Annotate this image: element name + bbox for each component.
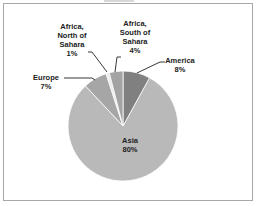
label-africa-north-line3: Sahara (52, 40, 92, 49)
leader-line-africa-south (115, 57, 121, 72)
label-africa-north: Africa, North of Sahara 1% (52, 22, 92, 58)
label-asia: Asia 80% (115, 136, 145, 154)
label-africa-south-value: 4% (113, 46, 157, 55)
leader-line-europe (64, 78, 95, 80)
label-africa-south-line3: Sahara (113, 37, 157, 46)
label-africa-north-value: 1% (52, 49, 92, 58)
label-africa-south: Africa, South of Sahara 4% (113, 19, 157, 55)
label-america-value: 8% (157, 65, 203, 74)
label-america: America 8% (157, 56, 203, 74)
label-europe: Europe 7% (26, 73, 66, 91)
label-asia-value: 80% (115, 145, 145, 154)
label-america-name: America (157, 56, 203, 65)
label-africa-north-line1: Africa, (52, 22, 92, 31)
label-asia-name: Asia (115, 136, 145, 145)
label-europe-value: 7% (26, 82, 66, 91)
label-africa-south-line2: South of (113, 28, 157, 37)
label-africa-south-line1: Africa, (113, 19, 157, 28)
label-africa-north-line2: North of (52, 31, 92, 40)
label-europe-name: Europe (26, 73, 66, 82)
